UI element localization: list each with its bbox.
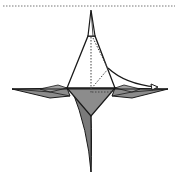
left-flap: [12, 85, 70, 98]
fold-arrow: [108, 68, 158, 90]
right-flap: [112, 85, 168, 98]
origami-diagram: [0, 0, 178, 177]
